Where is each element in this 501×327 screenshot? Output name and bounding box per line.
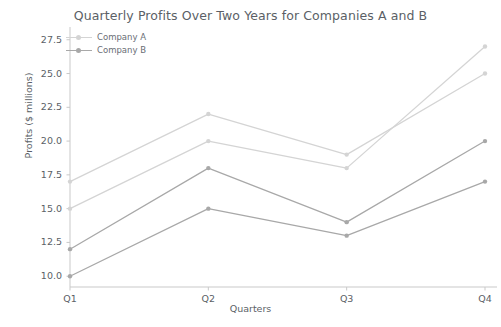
series-line — [70, 141, 485, 249]
data-point-marker — [483, 179, 487, 183]
data-point-marker — [344, 233, 348, 237]
data-point-marker — [206, 112, 210, 116]
data-point-marker — [68, 179, 72, 183]
data-point-marker — [344, 152, 348, 156]
data-point-marker — [483, 44, 487, 48]
legend-label-company-a: Company A — [97, 32, 146, 42]
legend-item-company-a[interactable]: Company A — [66, 31, 146, 43]
series-line — [70, 182, 485, 277]
data-point-marker — [68, 247, 72, 251]
chart-legend: Company A Company B — [66, 31, 146, 57]
legend-marker-icon — [76, 48, 81, 53]
data-point-marker — [206, 139, 210, 143]
x-tick-label: Q3 — [327, 293, 367, 304]
x-tick-label: Q4 — [465, 293, 501, 304]
data-point-marker — [483, 139, 487, 143]
chart-figure: Quarterly Profits Over Two Years for Com… — [0, 0, 501, 327]
y-tick-label: 15.0 — [22, 203, 62, 214]
legend-label-company-b: Company B — [97, 45, 146, 55]
data-point-marker — [344, 166, 348, 170]
data-point-marker — [68, 274, 72, 278]
data-point-marker — [206, 166, 210, 170]
data-point-marker — [206, 206, 210, 210]
y-tick-label: 27.5 — [22, 34, 62, 45]
y-tick-label: 25.0 — [22, 68, 62, 79]
x-axis-label: Quarters — [0, 303, 501, 314]
x-tick-label: Q2 — [188, 293, 228, 304]
y-tick-label: 22.5 — [22, 101, 62, 112]
y-tick-label: 17.5 — [22, 169, 62, 180]
legend-marker-icon — [76, 35, 81, 40]
x-tick-label: Q1 — [50, 293, 90, 304]
series-line — [70, 47, 485, 209]
data-point-marker — [344, 220, 348, 224]
legend-item-company-b[interactable]: Company B — [66, 44, 146, 56]
data-point-marker — [68, 206, 72, 210]
legend-swatch-company-a — [66, 31, 92, 43]
legend-swatch-company-b — [66, 44, 92, 56]
series-line — [70, 74, 485, 182]
data-point-marker — [483, 71, 487, 75]
y-tick-label: 20.0 — [22, 135, 62, 146]
y-tick-label: 10.0 — [22, 270, 62, 281]
y-tick-label: 12.5 — [22, 236, 62, 247]
